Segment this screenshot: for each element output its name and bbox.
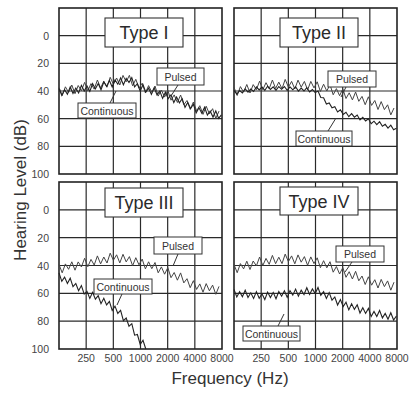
x-tick-label: 8000	[210, 352, 234, 364]
x-tick-label: 1000	[304, 352, 328, 364]
x-tick-label: 2000	[156, 352, 180, 364]
y-tick-label: 80	[37, 140, 49, 152]
pulsed-label: Pulsed	[164, 71, 196, 83]
y-tick-label: 40	[37, 85, 49, 97]
pulsed-label: Pulsed	[336, 73, 368, 85]
x-tick-label: 4000	[183, 352, 207, 364]
continuous-leader-line	[117, 294, 122, 305]
pulsed-leader-line	[173, 254, 178, 266]
y-tick-label: 40	[37, 260, 49, 272]
y-tick-label: 60	[37, 287, 49, 299]
x-tick-label: 4000	[358, 352, 382, 364]
panels-group: 020406080100Type IPulsedContinuousType I…	[31, 8, 408, 364]
y-tick-label: 100	[31, 343, 49, 355]
continuous-label: Continuous	[96, 281, 149, 293]
continuous-label: Continuous	[297, 133, 350, 145]
x-tick-label: 250	[252, 352, 270, 364]
y-tick-label: 0	[43, 30, 49, 42]
continuous-leader-line	[278, 314, 284, 326]
type-label: Type I	[119, 23, 168, 43]
y-tick-label: 80	[37, 315, 49, 327]
pulsed-label: Pulsed	[162, 240, 194, 252]
type-label: Type III	[114, 193, 173, 213]
x-tick-label: 1000	[129, 352, 153, 364]
panel-type-i: 020406080100Type IPulsedContinuous	[31, 8, 222, 180]
y-tick-label: 20	[37, 57, 49, 69]
x-tick-label: 500	[280, 352, 298, 364]
y-axis-title: Hearing Level (dB)	[11, 119, 30, 261]
panel-type-iii: 0204060801002505001000200040008000Type I…	[31, 182, 233, 364]
y-tick-label: 20	[37, 232, 49, 244]
x-tick-label: 500	[105, 352, 123, 364]
continuous-label: Continuous	[245, 328, 298, 340]
x-tick-label: 8000	[385, 352, 409, 364]
pulsed-label: Pulsed	[344, 248, 376, 260]
panel-type-ii: Type IIPulsedContinuous	[234, 8, 397, 174]
x-tick-label: 250	[77, 352, 95, 364]
y-tick-label: 100	[31, 168, 49, 180]
audiogram-chart: 020406080100Type IPulsedContinuousType I…	[0, 0, 418, 397]
panel-type-iv: 2505001000200040008000Type IVPulsedConti…	[234, 182, 409, 364]
continuous-label: Continuous	[80, 105, 133, 117]
type-label: Type IV	[288, 192, 349, 212]
type-label: Type II	[292, 23, 346, 43]
y-tick-label: 60	[37, 113, 49, 125]
x-axis-title: Frequency (Hz)	[171, 369, 288, 388]
continuous-leader-line	[328, 118, 336, 131]
y-tick-label: 0	[43, 204, 49, 216]
x-tick-label: 2000	[331, 352, 355, 364]
pulsed-leader-line	[345, 262, 352, 272]
